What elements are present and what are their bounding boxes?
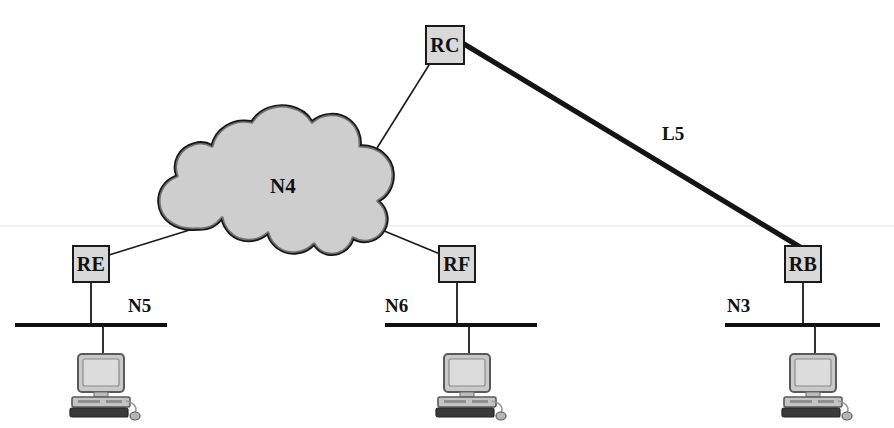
link-n4-re: [109, 228, 196, 255]
router-node-rf[interactable]: RF: [438, 245, 476, 283]
network-label-n3: N3: [727, 296, 750, 315]
link-rc-rb-l5: [464, 44, 800, 247]
cloud-label-n4: N4: [270, 176, 296, 197]
router-node-rb[interactable]: RB: [784, 245, 822, 283]
link-label-l5: L5: [662, 124, 684, 143]
workstation-icon-n5: [70, 354, 140, 420]
router-label-re: RE: [77, 254, 105, 274]
network-label-n5: N5: [128, 296, 151, 315]
router-node-re[interactable]: RE: [72, 245, 110, 283]
link-n4-rf: [377, 228, 440, 254]
workstation-icon-n3: [782, 354, 852, 420]
network-diagram-canvas: N4 RC RE RF RB L5 N5 N6 N3: [0, 0, 894, 428]
router-node-rc[interactable]: RC: [425, 25, 465, 65]
workstation-icon-n6: [436, 354, 506, 420]
router-label-rb: RB: [789, 254, 817, 274]
router-label-rc: RC: [430, 35, 460, 55]
router-label-rf: RF: [443, 254, 470, 274]
network-label-n6: N6: [385, 296, 408, 315]
link-rc-n4: [377, 65, 429, 148]
